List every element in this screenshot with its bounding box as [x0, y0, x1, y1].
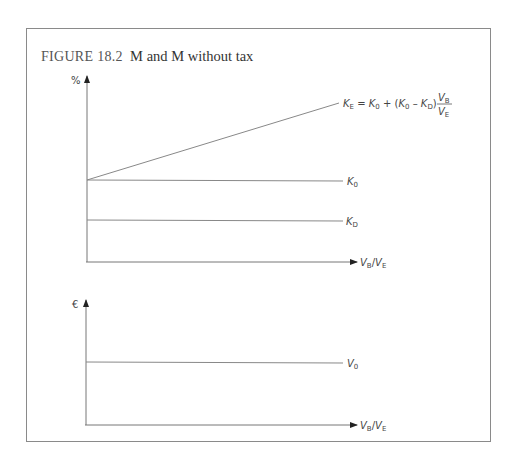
top-x-axis-label: VB/VE — [360, 257, 386, 270]
bottom-x-axis-label: VB/VE — [360, 420, 386, 433]
diagram: % KE = K0 + (K0 – KD) VB VE K0 KD VB/VE … — [0, 0, 516, 468]
v0-line — [86, 362, 343, 363]
ke-equation: KE = K0 + (K0 – KD) — [343, 98, 437, 111]
k0-label: K0 — [347, 176, 358, 189]
top-y-axis-label: % — [71, 75, 81, 86]
v0-label: V0 — [347, 358, 358, 371]
k0-line — [87, 180, 343, 181]
ke-fraction-denominator: VE — [438, 106, 449, 119]
bottom-chart: € V0 VB/VE — [72, 299, 386, 433]
kd-line — [87, 220, 343, 221]
ke-fraction-numerator: VB — [438, 92, 450, 105]
kd-label: KD — [346, 216, 358, 229]
bottom-y-axis-label: € — [72, 299, 78, 310]
ke-line — [87, 103, 339, 180]
top-chart: % KE = K0 + (K0 – KD) VB VE K0 KD VB/VE — [71, 75, 452, 270]
